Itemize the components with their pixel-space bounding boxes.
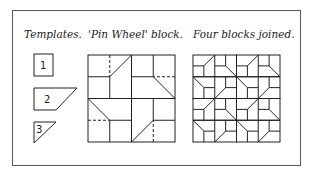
template-3-triangle: 3: [34, 122, 56, 143]
seam-line: [258, 88, 269, 99]
template-2-label: 2: [44, 94, 50, 105]
seam-line: [247, 99, 258, 110]
seam-line: [110, 55, 132, 77]
seam-line: [226, 66, 237, 77]
seam-line: [237, 120, 248, 131]
seam-line: [269, 109, 280, 120]
seam-line: [193, 120, 204, 131]
seam-line: [215, 88, 226, 99]
seam-line: [237, 77, 248, 88]
template-2-trapezoid: 2: [34, 88, 77, 110]
seam-line: [269, 66, 280, 77]
pin-wheel-block: [88, 55, 175, 142]
seam-line: [215, 131, 226, 142]
seam-line: [204, 55, 215, 66]
template-3-label: 3: [36, 124, 42, 135]
seam-line: [204, 99, 215, 110]
seam-line: [247, 55, 258, 66]
four-blocks-joined: [193, 55, 280, 142]
seam-line: [193, 77, 204, 88]
seam-line: [88, 99, 110, 121]
template-1-square: 1: [34, 54, 53, 76]
seam-line: [132, 120, 154, 142]
diagram-canvas: 1 2 3: [0, 0, 315, 175]
seam-line: [153, 77, 175, 99]
seam-line: [226, 109, 237, 120]
template-1-label: 1: [40, 60, 46, 71]
seam-line: [258, 131, 269, 142]
